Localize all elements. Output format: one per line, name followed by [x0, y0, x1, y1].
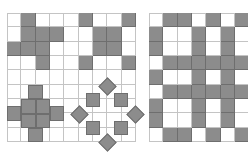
empty-cell: [235, 99, 248, 113]
empty-cell: [64, 56, 79, 70]
filled-cell: [36, 42, 50, 56]
cross-right-arm: [50, 106, 64, 121]
empty-cell: [163, 42, 178, 56]
filled-cell: [178, 85, 192, 99]
right-pattern-grid: [149, 13, 248, 142]
filled-cell: [221, 113, 235, 128]
empty-cell: [7, 128, 21, 142]
filled-cell: [192, 99, 206, 113]
empty-cell: [64, 70, 79, 85]
ring-square-bottom-right: [114, 121, 128, 135]
empty-cell: [221, 13, 235, 27]
empty-cell: [235, 70, 248, 85]
filled-cell: [221, 85, 235, 99]
empty-cell: [64, 128, 79, 142]
filled-cell: [163, 56, 178, 70]
empty-cell: [93, 13, 107, 27]
filled-cell: [7, 42, 21, 56]
filled-cell: [149, 113, 163, 128]
filled-cell: [163, 128, 178, 142]
filled-cell: [36, 27, 50, 42]
empty-cell: [163, 27, 178, 42]
empty-cell: [206, 99, 221, 113]
filled-cell: [122, 56, 136, 70]
filled-cell: [192, 27, 206, 42]
filled-cell: [107, 42, 122, 56]
empty-cell: [178, 113, 192, 128]
empty-cell: [79, 70, 93, 85]
empty-cell: [64, 27, 79, 42]
filled-cell: [235, 128, 248, 142]
empty-cell: [235, 113, 248, 128]
empty-cell: [7, 13, 21, 27]
empty-cell: [7, 56, 21, 70]
filled-cell: [178, 13, 192, 27]
filled-cell: [50, 27, 64, 42]
empty-cell: [178, 70, 192, 85]
filled-cell: [79, 56, 93, 70]
filled-cell: [93, 27, 107, 42]
filled-cell: [235, 85, 248, 99]
empty-cell: [122, 70, 136, 85]
empty-cell: [79, 27, 93, 42]
empty-cell: [149, 13, 163, 27]
ring-square-bottom-left: [86, 121, 100, 135]
empty-cell: [163, 113, 178, 128]
cross-top-arm: [28, 85, 43, 99]
empty-cell: [178, 99, 192, 113]
empty-cell: [163, 99, 178, 113]
filled-cell: [93, 42, 107, 56]
filled-cell: [235, 13, 248, 27]
cross-center-br: [36, 114, 50, 128]
empty-cell: [192, 128, 206, 142]
empty-cell: [36, 70, 50, 85]
empty-cell: [192, 13, 206, 27]
cross-bottom-arm: [28, 128, 43, 142]
filled-cell: [192, 70, 206, 85]
empty-cell: [206, 113, 221, 128]
empty-cell: [64, 85, 79, 99]
empty-cell: [7, 85, 21, 99]
empty-cell: [50, 56, 64, 70]
filled-cell: [21, 13, 36, 27]
empty-cell: [79, 42, 93, 56]
filled-cell: [192, 113, 206, 128]
empty-cell: [7, 27, 21, 42]
filled-cell: [149, 99, 163, 113]
filled-cell: [206, 85, 221, 99]
filled-cell: [149, 70, 163, 85]
ring-square-top-right: [114, 93, 128, 107]
ring-square-top-left: [86, 93, 100, 107]
filled-cell: [192, 85, 206, 99]
empty-cell: [21, 56, 36, 70]
empty-cell: [50, 128, 64, 142]
filled-cell: [221, 27, 235, 42]
empty-cell: [149, 85, 163, 99]
cross-center-tr: [36, 99, 50, 114]
filled-cell: [192, 42, 206, 56]
empty-cell: [221, 128, 235, 142]
filled-cell: [163, 85, 178, 99]
empty-cell: [206, 27, 221, 42]
empty-cell: [149, 128, 163, 142]
filled-cell: [221, 99, 235, 113]
empty-cell: [206, 42, 221, 56]
filled-cell: [221, 56, 235, 70]
filled-cell: [221, 42, 235, 56]
empty-cell: [107, 13, 122, 27]
filled-cell: [149, 27, 163, 42]
empty-cell: [235, 27, 248, 42]
empty-cell: [50, 42, 64, 56]
filled-cell: [192, 56, 206, 70]
empty-cell: [122, 27, 136, 42]
empty-cell: [93, 56, 107, 70]
empty-cell: [122, 42, 136, 56]
empty-cell: [50, 70, 64, 85]
filled-cell: [21, 42, 36, 56]
empty-cell: [206, 70, 221, 85]
cross-center-bl: [21, 114, 36, 128]
filled-cell: [206, 56, 221, 70]
empty-cell: [64, 13, 79, 27]
empty-cell: [163, 70, 178, 85]
filled-cell: [36, 56, 50, 70]
